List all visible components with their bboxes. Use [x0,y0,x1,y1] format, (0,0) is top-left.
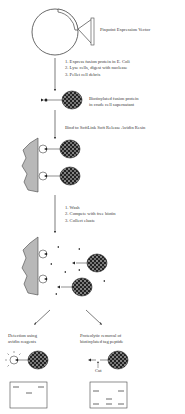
arrow-branch-right [86,310,101,324]
product1-label: Biotinylated fusion protein in crude cel… [89,96,139,109]
step1-line-2: 2. Lyse cells, digest with nuclease [65,65,130,71]
step1-instructions: 1. Express fusion protein in E. Coli 2. … [65,59,130,78]
proteolysis-label: Proteolytic removal of biotinylated tag … [80,333,123,346]
step3-line-2: 2. Compete with free biotin [65,211,116,217]
avidin-resin-icon [22,138,80,192]
plasmid-vector-icon [32,9,94,55]
cleavage-icon [88,351,128,369]
step2-label: Bind to SoftLink Soft Release Avidin Res… [65,125,145,131]
elution-scene-icon [22,237,107,296]
fusion-protein-icon [41,91,82,109]
proteolysis-line-2: biotinylated tag peptide [80,339,123,345]
detection-line-2: avidin reagents [8,339,37,345]
vector-label: Pinpoint Expression Vector [100,27,150,33]
gel-right-icon [90,382,127,408]
product1-line-2: in crude cell supernatant [89,102,139,108]
detection-label: Detection using avidin reagents [8,333,37,346]
arrow-branch-left [35,310,50,324]
step3-instructions: 1. Wash 2. Compete with free biotin 3. C… [65,205,116,224]
detection-icon [5,351,48,369]
cut-label: Cut [95,368,102,374]
step1-line-3: 3. Pellet cell debris [65,72,130,78]
gel-left-icon [10,382,47,408]
step3-line-3: 3. Collect eluate [65,218,116,224]
